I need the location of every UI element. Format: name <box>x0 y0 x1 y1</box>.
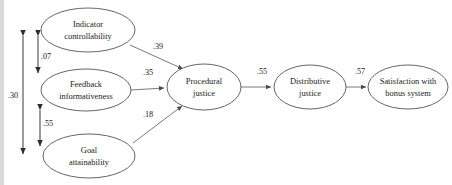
coefficient-distributive-to-satisfaction: .57 <box>355 67 365 76</box>
coefficient-indicator-to-procedural: .39 <box>153 42 163 51</box>
coefficient-goal-to-procedural: .18 <box>143 110 153 119</box>
coefficient-correlation-indicator-goal: .30 <box>8 91 18 100</box>
node-feedback-informativeness <box>41 69 131 111</box>
node-goal-attainability <box>43 134 135 178</box>
coefficient-procedural-to-distributive: .55 <box>257 67 267 76</box>
node-label-satisfaction-line2: bonus system <box>385 89 431 98</box>
path-goal-to-procedural <box>133 106 182 143</box>
node-label-distributive-line1: Distributive <box>290 77 330 86</box>
node-satisfaction-bonus-system <box>368 65 448 109</box>
node-indicator-controllability <box>41 8 135 52</box>
coefficient-correlation-feedback-goal: .55 <box>43 119 53 128</box>
path-feedback-to-procedural <box>131 88 164 90</box>
node-distributive-justice <box>274 65 346 109</box>
node-label-feedback-line1: Feedback <box>70 80 103 89</box>
node-label-feedback-line2: informativeness <box>59 92 113 101</box>
path-diagram-figure: Indicator controllability Feedback infor… <box>0 0 452 185</box>
coefficient-feedback-to-procedural: .35 <box>143 68 153 77</box>
node-label-distributive-line2: justice <box>298 89 321 98</box>
node-label-procedural-line2: justice <box>192 89 215 98</box>
correlation-group <box>23 36 40 154</box>
node-label-procedural-line1: Procedural <box>186 77 223 86</box>
diagram-canvas: Indicator controllability Feedback infor… <box>0 0 452 185</box>
node-label-goal-line2: attainability <box>69 158 110 167</box>
node-label-satisfaction-line1: Satisfaction with <box>380 77 437 86</box>
node-procedural-justice <box>167 64 241 110</box>
node-label-indicator-line1: Indicator <box>73 20 103 29</box>
coefficient-correlation-indicator-feedback: .07 <box>41 52 51 61</box>
node-label-indicator-line2: controllability <box>64 32 112 41</box>
node-label-goal-line1: Goal <box>81 146 98 155</box>
